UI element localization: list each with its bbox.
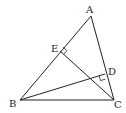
label-a: A bbox=[85, 4, 94, 15]
label-b: B bbox=[9, 98, 16, 109]
altitude-ce bbox=[60, 51, 114, 100]
side-ac bbox=[91, 16, 114, 100]
label-e: E bbox=[51, 43, 58, 54]
triangle-diagram: A B C D E bbox=[0, 0, 126, 113]
side-ab bbox=[20, 16, 91, 100]
altitude-bd bbox=[20, 74, 105, 100]
right-angle-marker-d bbox=[99, 76, 105, 81]
label-d: D bbox=[108, 66, 116, 77]
label-c: C bbox=[114, 99, 122, 110]
